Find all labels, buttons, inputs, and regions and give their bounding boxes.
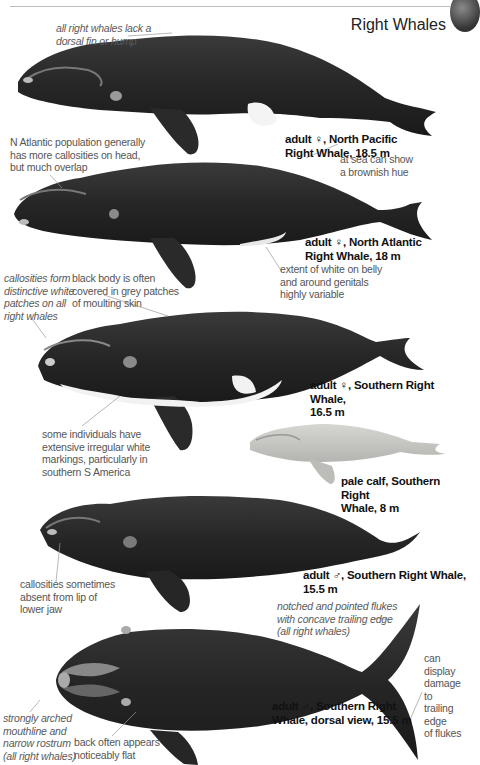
note-grey-patches: black body is oftencovered in grey patch… <box>72 272 179 310</box>
note-fluke-damage: can displaydamage totrailing edgeof fluk… <box>424 652 468 740</box>
note-callosities-form: callosities formdistinctive whitepatches… <box>4 272 74 322</box>
caption-southern-female: adult ♀, Southern Right Whale,16.5 m <box>310 379 468 420</box>
caption-southern-male: adult ♂, Southern Right Whale,15.5 m <box>303 569 466 596</box>
note-flat-back: back often appearsnoticeably flat <box>74 736 160 761</box>
note-notched-flukes: notched and pointed flukeswith concave t… <box>277 600 397 638</box>
note-no-dorsal-fin: all right whales lack adorsal fin or hum… <box>56 22 151 47</box>
note-n-atlantic-callosities: N Atlantic population generallyhas more … <box>10 136 145 174</box>
note-white-belly: extent of white on bellyand around genit… <box>280 263 382 301</box>
caption-north-pacific: adult ♀, North PacificRight Whale, 18.5 … <box>285 133 397 160</box>
caption-north-atlantic: adult ♀, North AtlanticRight Whale, 18 m <box>305 236 422 263</box>
note-white-markings: some individuals haveextensive irregular… <box>42 428 150 478</box>
caption-pale-calf: pale calf, Southern RightWhale, 8 m <box>341 475 468 516</box>
note-absent-lower-jaw: callosities sometimesabsent from lip ofl… <box>20 578 115 616</box>
caption-dorsal-view: adult ♂, Southern RightWhale, dorsal vie… <box>272 700 411 727</box>
note-arched-mouthline: strongly archedmouthline andnarrow rostr… <box>3 712 76 762</box>
